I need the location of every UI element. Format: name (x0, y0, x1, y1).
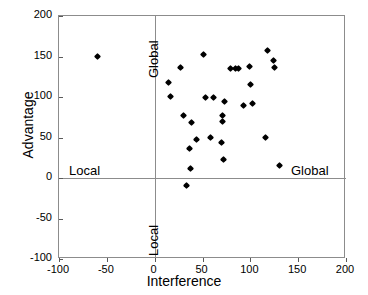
data-point (249, 100, 256, 107)
y-axis-title: Advantage (21, 45, 35, 205)
y-axis-tick-label: -50 (12, 212, 52, 223)
data-point (167, 93, 174, 100)
y-axis-tick (59, 16, 63, 17)
data-point (207, 134, 214, 141)
data-point (187, 165, 194, 172)
data-point (188, 119, 195, 126)
data-point (240, 102, 247, 109)
y-axis-tick (59, 138, 63, 139)
data-point (180, 112, 187, 119)
x-axis-tick (155, 258, 156, 262)
data-point (165, 79, 172, 86)
data-point (202, 94, 209, 101)
data-point (221, 98, 228, 105)
data-point (186, 145, 193, 152)
data-point (264, 47, 271, 54)
zero-horizontal-reference-line (59, 178, 346, 179)
data-point (220, 156, 227, 163)
data-point (177, 63, 184, 70)
data-point (262, 134, 269, 141)
data-point (210, 94, 217, 101)
data-point (219, 118, 226, 125)
x-axis-tick (250, 258, 251, 262)
y-axis-tick (59, 219, 63, 220)
y-axis-tick (59, 97, 63, 98)
data-point (270, 57, 277, 64)
x-axis-tick (107, 258, 108, 262)
data-point (183, 182, 190, 189)
data-point (247, 80, 254, 87)
quadrant-label-global-top: Global (147, 40, 160, 78)
data-point (275, 162, 282, 169)
y-axis-tick (59, 178, 63, 179)
y-axis-tick-label: 200 (12, 9, 52, 20)
scatter-chart: Local Global Global Local -100-500501001… (0, 0, 368, 295)
quadrant-label-local-left: Local (69, 164, 100, 177)
y-axis-tick (59, 57, 63, 58)
data-point (271, 63, 278, 70)
x-axis-tick (298, 258, 299, 262)
data-point (193, 136, 200, 143)
x-axis-title: Interference (0, 274, 368, 288)
y-axis-tick (59, 259, 63, 260)
data-point (246, 63, 253, 70)
data-point (94, 53, 101, 60)
quadrant-label-global-right: Global (291, 164, 329, 177)
x-axis-tick (203, 258, 204, 262)
data-point (200, 51, 207, 58)
y-axis-tick-label: -100 (12, 252, 52, 263)
data-point (218, 139, 225, 146)
quadrant-label-local-bottom: Local (147, 225, 160, 256)
plot-area: Local Global Global Local (58, 15, 345, 258)
x-axis-tick (346, 258, 347, 262)
